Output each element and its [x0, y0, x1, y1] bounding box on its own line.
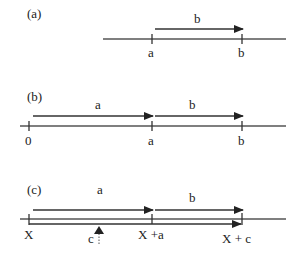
tick-label-a: a: [148, 133, 154, 148]
panel-a-label: (a): [27, 6, 41, 21]
panel-b-label: (b): [27, 89, 42, 104]
pointer-c-arrowhead-icon: [94, 226, 104, 234]
vector-a-label: a: [97, 182, 103, 197]
panel-c: (c) a b X X +a X + c c: [20, 182, 286, 246]
panel-a: (a) b a b: [27, 6, 286, 60]
tick-label-b: b: [238, 133, 245, 148]
vector-b-label: b: [194, 11, 201, 26]
vector-a-label: a: [95, 97, 101, 112]
vector-b-label: b: [189, 97, 196, 112]
tick-label-x: X: [24, 227, 34, 242]
vector-addition-diagram: (a) b a b (b) a b 0 a b (c) a b X: [0, 0, 301, 257]
pointer-c-label: c: [88, 231, 94, 246]
tick-label-x-plus-c: X + c: [222, 231, 251, 246]
tick-label-b: b: [238, 45, 245, 60]
tick-label-0: 0: [25, 133, 32, 148]
vector-b-label: b: [189, 190, 196, 205]
tick-label-x-plus-a: X +a: [138, 227, 164, 242]
panel-b: (b) a b 0 a b: [20, 89, 286, 148]
panel-c-label: (c): [27, 182, 41, 197]
tick-label-a: a: [148, 45, 154, 60]
